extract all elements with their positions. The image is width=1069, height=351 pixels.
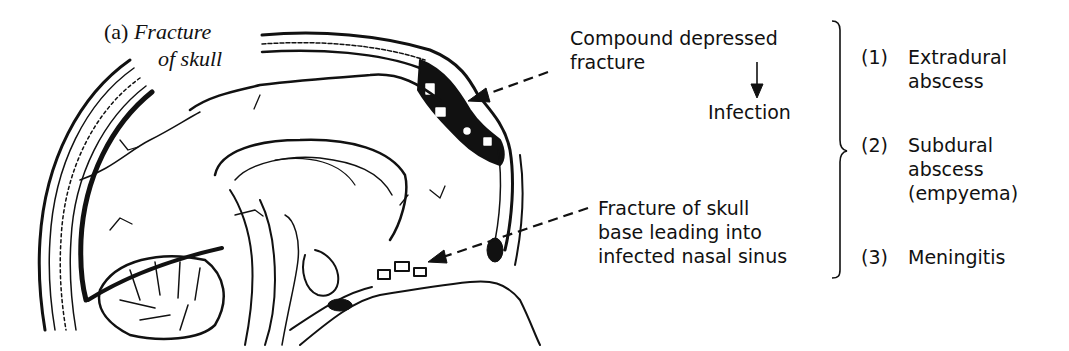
- outcome-text: Meningitis: [908, 245, 1005, 269]
- skull-base-fracture-arrow: [428, 208, 588, 263]
- outcome-line: abscess: [908, 69, 1007, 93]
- outcome-number: (3): [861, 245, 888, 269]
- pituitary: [303, 250, 338, 296]
- outcome-line: Meningitis: [908, 245, 1005, 269]
- panel-title: (a) Fracture: [104, 19, 211, 45]
- compound-fracture-arrow: [468, 72, 548, 102]
- corpus-callosum: [215, 140, 406, 240]
- panel-label: (a): [104, 19, 128, 44]
- infection-label: Infection: [708, 100, 791, 124]
- panel-title-line1: Fracture: [134, 19, 211, 44]
- skull-base-line1: Fracture of skull: [598, 196, 787, 220]
- compound-fracture-label: Compound depressed fracture: [570, 26, 778, 74]
- outcome-number: (2): [861, 133, 888, 157]
- compound-fracture-line2: fracture: [570, 50, 778, 74]
- outcome-text: Extradural abscess: [908, 45, 1007, 93]
- outcomes-brace: [832, 21, 847, 278]
- cerebrum-outline: [190, 75, 440, 110]
- cerebellum-icon: [99, 256, 224, 339]
- outcome-line: Extradural: [908, 45, 1007, 69]
- compound-fracture-line1: Compound depressed: [570, 26, 778, 50]
- skull-occipital-icon: [39, 60, 152, 330]
- skull-base-line3: infected nasal sinus: [598, 244, 787, 268]
- skull-base: [300, 281, 540, 345]
- panel-title-line2: of skull: [158, 46, 222, 72]
- figure-skull-fracture: (a) Fracture of skull Compound depressed…: [0, 0, 1069, 351]
- skull-base-line2: base leading into: [598, 220, 787, 244]
- outcome-line: abscess: [908, 157, 1018, 181]
- outcome-number: (1): [861, 45, 888, 69]
- outcome-line: (empyema): [908, 181, 1018, 205]
- outcome-line: Subdural: [908, 133, 1018, 157]
- skull-base-fracture-label: Fracture of skull base leading into infe…: [598, 196, 787, 268]
- outcome-text: Subdural abscess (empyema): [908, 133, 1018, 205]
- base-fracture-fragments: [378, 262, 426, 279]
